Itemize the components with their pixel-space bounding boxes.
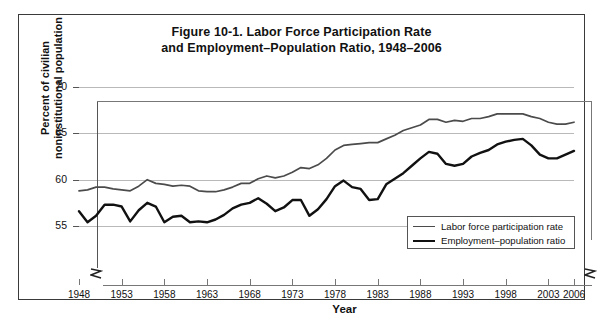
series-line-employment-population-ratio [79,139,574,222]
legend-item-employment-population-ratio: Employment–population ratio [413,234,569,247]
legend-line-swatch-epop [413,240,435,242]
legend-item-labor-force-participation-rate: Labor force participation rate [413,220,569,233]
legend-line-swatch-lfpr [413,226,435,227]
data-series-plot [19,15,586,301]
x-axis-title: Year [97,303,592,315]
legend-label-epop: Employment–population ratio [441,235,565,246]
series-line-labor-force-participation-rate [79,114,574,192]
figure-frame: Figure 10-1. Labor Force Participation R… [18,14,585,300]
legend-label-lfpr: Labor force participation rate [441,221,563,232]
legend: Labor force participation rate Employmen… [407,216,575,249]
